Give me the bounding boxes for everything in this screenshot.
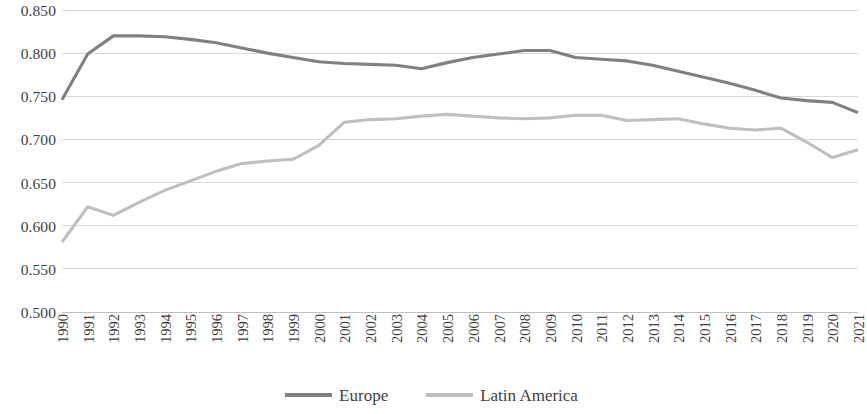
series-line-europe	[62, 36, 858, 113]
x-tick-label: 2000	[313, 314, 328, 370]
legend-swatch-europe	[285, 393, 332, 397]
x-tick-label: 2018	[775, 314, 790, 370]
y-tick-label: 0.700	[0, 132, 56, 148]
y-tick-label: 0.800	[0, 46, 56, 62]
plot-svg	[62, 10, 858, 312]
x-tick-label: 2004	[415, 314, 430, 370]
x-tick-label: 2020	[826, 314, 841, 370]
legend-label: Latin America	[480, 387, 578, 404]
y-tick-label: 0.550	[0, 262, 56, 278]
x-tick-label: 2012	[621, 314, 636, 370]
x-tick-label: 1990	[56, 314, 71, 370]
x-tick-label: 2005	[441, 314, 456, 370]
x-tick-label: 2007	[493, 314, 508, 370]
x-tick-label: 2008	[518, 314, 533, 370]
x-tick-label: 2001	[338, 314, 353, 370]
x-tick-label: 2006	[467, 314, 482, 370]
y-tick-label: 0.600	[0, 219, 56, 235]
x-tick-label: 1998	[261, 314, 276, 370]
x-tick-label: 2019	[801, 314, 816, 370]
y-tick-label: 0.500	[0, 305, 56, 321]
x-tick-label: 1991	[82, 314, 97, 370]
y-tick-label: 0.850	[0, 3, 56, 19]
y-tick-label: 0.750	[0, 89, 56, 105]
y-axis: 0.8500.8000.7500.7000.6500.6000.5500.500	[0, 0, 56, 322]
x-tick-label: 1992	[107, 314, 122, 370]
legend-swatch-latin-america	[426, 393, 473, 397]
x-tick-label: 2002	[364, 314, 379, 370]
x-tick-label: 2021	[852, 314, 867, 370]
x-tick-label: 1995	[184, 314, 199, 370]
x-tick-label: 2016	[724, 314, 739, 370]
y-tick-label: 0.650	[0, 176, 56, 192]
legend-entry-latin-america[interactable]: Latin America	[426, 387, 578, 404]
legend-entry-europe[interactable]: Europe	[285, 387, 388, 404]
x-tick-label: 2013	[647, 314, 662, 370]
chart-legend: EuropeLatin America	[0, 382, 863, 408]
x-tick-label: 1999	[287, 314, 302, 370]
gridlines	[62, 10, 858, 312]
x-tick-label: 2003	[390, 314, 405, 370]
x-tick-label: 2014	[672, 314, 687, 370]
x-tick-label: 2015	[698, 314, 713, 370]
x-tick-label: 2009	[544, 314, 559, 370]
x-axis: 1990199119921993199419951996199719981999…	[62, 314, 858, 370]
series-line-latin-america	[62, 114, 858, 242]
x-tick-label: 2017	[749, 314, 764, 370]
x-tick-label: 1996	[210, 314, 225, 370]
x-tick-label: 1997	[236, 314, 251, 370]
x-tick-label: 2010	[570, 314, 585, 370]
x-tick-label: 1994	[159, 314, 174, 370]
legend-label: Europe	[339, 387, 388, 404]
x-tick-label: 1993	[133, 314, 148, 370]
plot-area	[62, 10, 858, 312]
x-tick-label: 2011	[595, 314, 610, 370]
